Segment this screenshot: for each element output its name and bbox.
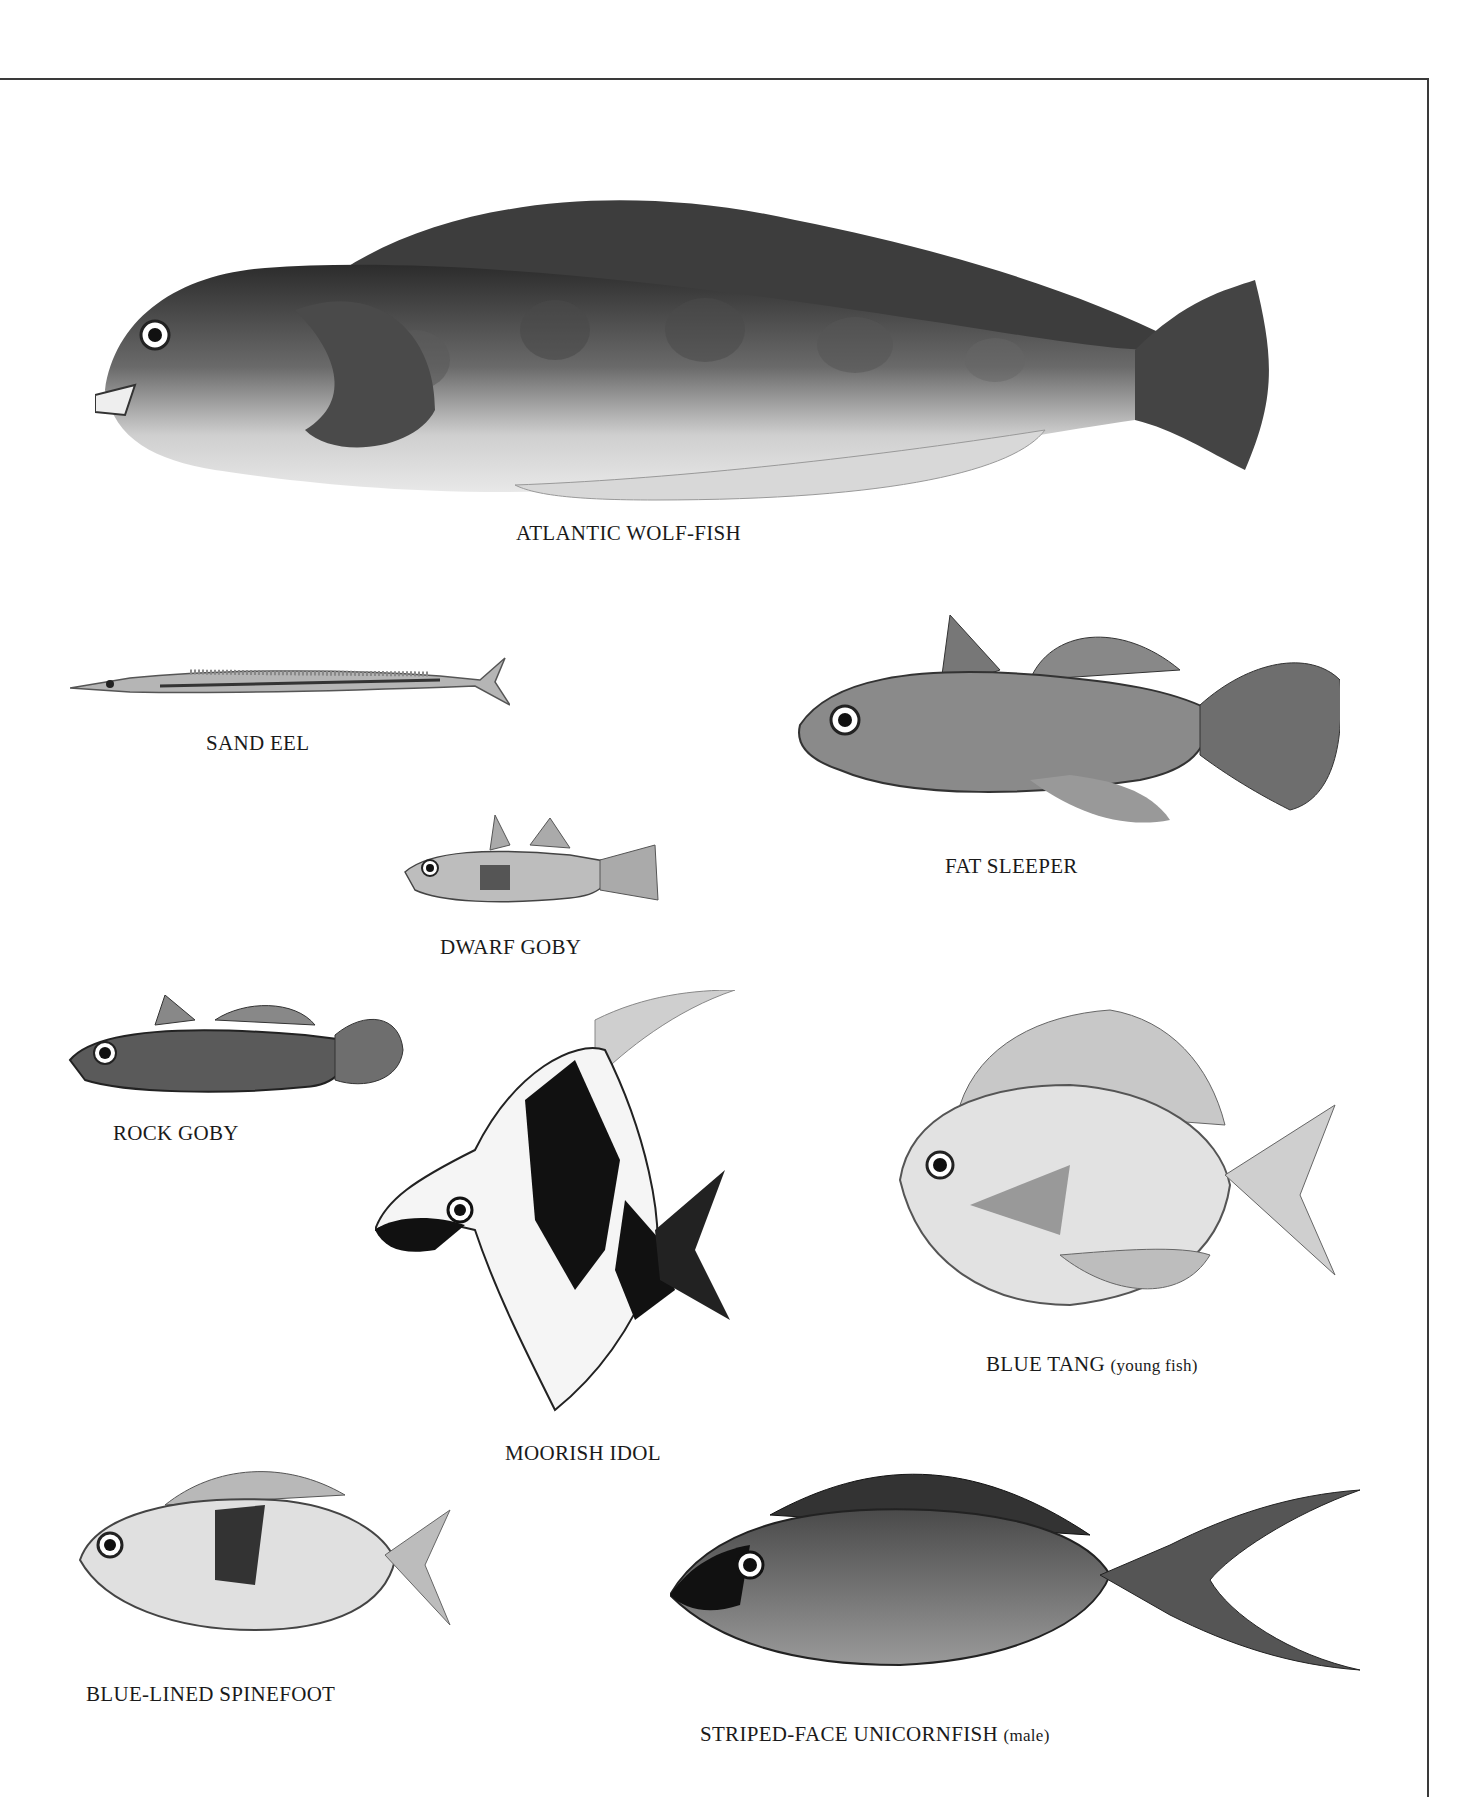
atlantic-wolf-fish-name: ATLANTIC WOLF-FISH — [516, 521, 741, 545]
dwarf-goby-label: DWARF GOBY — [440, 935, 581, 960]
moorish-idol-label: MOORISH IDOL — [505, 1441, 661, 1466]
atlantic-wolf-fish-label: ATLANTIC WOLF-FISH — [516, 521, 741, 546]
moorish-idol-name: MOORISH IDOL — [505, 1441, 661, 1465]
blue-lined-spinefoot-label: BLUE-LINED SPINEFOOT — [86, 1682, 335, 1707]
fat-sleeper-name: FAT SLEEPER — [945, 854, 1078, 878]
plate-border-top — [0, 78, 1428, 80]
striped-face-unicornfish-label: STRIPED-FACE UNICORNFISH (male) — [700, 1722, 1050, 1747]
rock-goby-label: ROCK GOBY — [113, 1121, 239, 1146]
rock-goby-name: ROCK GOBY — [113, 1121, 239, 1145]
atlantic-wolf-fish-illustration — [95, 180, 1325, 520]
blue-tang-note: (young fish) — [1111, 1356, 1198, 1375]
sand-eel-name: SAND EEL — [206, 731, 309, 755]
blue-lined-spinefoot-illustration — [75, 1455, 455, 1655]
striped-face-unicornfish-note: (male) — [1004, 1726, 1050, 1745]
striped-face-unicornfish-illustration — [670, 1455, 1360, 1700]
rock-goby-illustration — [65, 995, 405, 1105]
fat-sleeper-label: FAT SLEEPER — [945, 854, 1078, 879]
plate-border-right — [1427, 78, 1429, 1797]
striped-face-unicornfish-name: STRIPED-FACE UNICORNFISH — [700, 1722, 998, 1746]
dwarf-goby-illustration — [400, 810, 660, 920]
blue-tang-illustration — [880, 1005, 1340, 1335]
sand-eel-illustration — [70, 650, 510, 710]
blue-tang-label: BLUE TANG (young fish) — [986, 1352, 1198, 1377]
moorish-idol-illustration — [375, 990, 735, 1420]
sand-eel-label: SAND EEL — [206, 731, 309, 756]
fat-sleeper-illustration — [790, 610, 1340, 850]
dwarf-goby-name: DWARF GOBY — [440, 935, 581, 959]
blue-tang-name: BLUE TANG — [986, 1352, 1105, 1376]
blue-lined-spinefoot-name: BLUE-LINED SPINEFOOT — [86, 1682, 335, 1706]
